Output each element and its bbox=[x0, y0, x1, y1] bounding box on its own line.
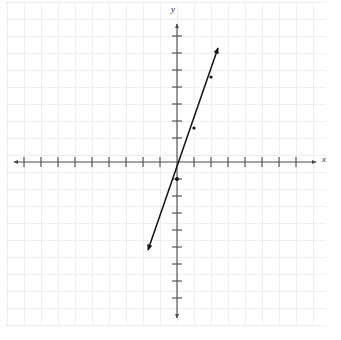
plot-canvas bbox=[0, 0, 341, 340]
y-axis bbox=[172, 24, 182, 318]
x-axis-label: x bbox=[322, 155, 326, 164]
plotted-line bbox=[148, 48, 218, 250]
graph-figure: y x bbox=[0, 0, 341, 340]
x-axis bbox=[14, 157, 316, 167]
y-axis-label: y bbox=[171, 5, 175, 14]
